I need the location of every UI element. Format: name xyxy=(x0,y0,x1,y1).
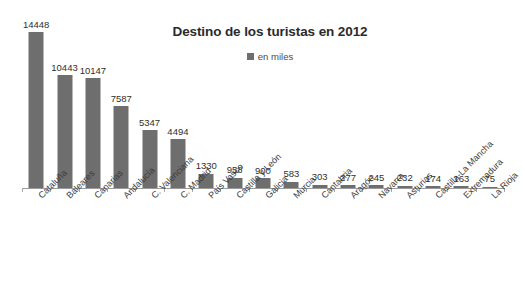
bar-value-label: 10443 xyxy=(51,63,77,73)
bar-value-label: 14448 xyxy=(23,20,49,30)
bar-chart: Destino de los turistas en 2012 en miles… xyxy=(0,0,525,290)
bar-slot: 10443 xyxy=(50,10,78,188)
x-axis-line xyxy=(22,188,505,189)
bar-slot: 232 xyxy=(391,10,419,188)
bar-slot: 958 xyxy=(220,10,248,188)
bar[interactable] xyxy=(29,32,44,188)
plot-area: 1444810443101477587534744941330958900583… xyxy=(22,10,504,188)
bar-value-label: 4494 xyxy=(167,127,188,137)
bar-slot: 174 xyxy=(419,10,447,188)
bar-value-label: 5347 xyxy=(139,118,160,128)
bar-slot: 245 xyxy=(362,10,390,188)
bar-value-label: 10147 xyxy=(80,66,106,76)
bar-slot: 7587 xyxy=(107,10,135,188)
bar-slot: 1330 xyxy=(192,10,220,188)
bar-value-label: 7587 xyxy=(111,94,132,104)
bar-slot: 303 xyxy=(306,10,334,188)
bar-slot: 5347 xyxy=(135,10,163,188)
axis-tick xyxy=(22,188,23,192)
bar-slot: 277 xyxy=(334,10,362,188)
bar-slot: 10147 xyxy=(79,10,107,188)
bar-slot: 14448 xyxy=(22,10,50,188)
bar-slot: 583 xyxy=(277,10,305,188)
